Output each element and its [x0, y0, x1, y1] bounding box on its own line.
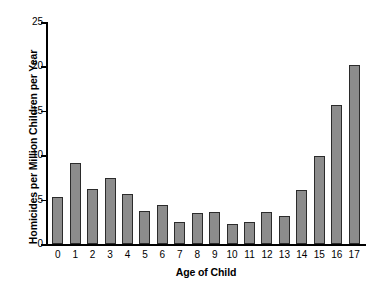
- y-tick-label: 15: [32, 106, 43, 116]
- bar-age-5: [139, 211, 150, 244]
- bar-slot: [84, 22, 101, 244]
- bar-age-4: [122, 194, 133, 244]
- bar-slot: [189, 22, 206, 244]
- bar-slot: [258, 22, 275, 244]
- bar-slot: [119, 22, 136, 244]
- bar-age-7: [174, 222, 185, 244]
- x-tick-label: 5: [136, 248, 153, 262]
- bar-slot: [345, 22, 362, 244]
- bar-slot: [328, 22, 345, 244]
- bar-age-15: [314, 156, 325, 244]
- y-tick-label: 5: [37, 195, 43, 205]
- bar-slot: [223, 22, 240, 244]
- x-tick-label: 3: [101, 248, 118, 262]
- bar-age-6: [157, 205, 168, 244]
- x-tick-label: 2: [84, 248, 101, 262]
- bar-slot: [101, 22, 118, 244]
- x-tick-label: 10: [223, 248, 240, 262]
- bar-chart-figure: Homicides per Million Children per Year …: [0, 0, 380, 294]
- x-tick-label: 17: [345, 248, 362, 262]
- x-tick-label: 7: [171, 248, 188, 262]
- bar-age-12: [261, 212, 272, 244]
- bar-age-9: [209, 212, 220, 244]
- bar-age-3: [105, 178, 116, 244]
- x-tick-label: 11: [241, 248, 258, 262]
- bar-slot: [311, 22, 328, 244]
- x-tick-label: 9: [206, 248, 223, 262]
- y-axis-title: Homicides per Million Children per Year: [22, 0, 44, 294]
- bars-layer: [46, 22, 366, 244]
- bar-slot: [136, 22, 153, 244]
- bar-age-10: [227, 224, 238, 244]
- x-tick-label: 15: [311, 248, 328, 262]
- x-tick-label: 1: [66, 248, 83, 262]
- bar-slot: [49, 22, 66, 244]
- bar-age-16: [331, 105, 342, 244]
- bar-age-11: [244, 222, 255, 244]
- y-tick-label: 0: [37, 239, 43, 249]
- bar-age-2: [87, 189, 98, 244]
- bar-slot: [241, 22, 258, 244]
- x-axis-line: [46, 244, 366, 246]
- bar-age-17: [349, 65, 360, 244]
- y-tick-label: 25: [32, 17, 43, 27]
- plot-area: 0510152025: [46, 22, 366, 244]
- x-tick-label: 0: [49, 248, 66, 262]
- bar-slot: [154, 22, 171, 244]
- y-tick-label: 20: [32, 61, 43, 71]
- x-tick-label: 13: [276, 248, 293, 262]
- y-tick-label: 10: [32, 150, 43, 160]
- x-tick-label: 12: [258, 248, 275, 262]
- bar-age-8: [192, 213, 203, 244]
- bar-age-14: [296, 190, 307, 244]
- bar-age-1: [70, 163, 81, 244]
- bar-slot: [293, 22, 310, 244]
- x-tick-label: 16: [328, 248, 345, 262]
- bar-slot: [66, 22, 83, 244]
- x-tick-label: 4: [119, 248, 136, 262]
- bar-slot: [276, 22, 293, 244]
- bar-slot: [171, 22, 188, 244]
- x-axis-title: Age of Child: [46, 266, 366, 278]
- x-tick-label: 14: [293, 248, 310, 262]
- bar-slot: [206, 22, 223, 244]
- x-tick-label: 6: [154, 248, 171, 262]
- x-axis-ticks: 01234567891011121314151617: [46, 248, 366, 262]
- bar-age-0: [52, 197, 63, 244]
- x-tick-label: 8: [189, 248, 206, 262]
- bar-age-13: [279, 216, 290, 244]
